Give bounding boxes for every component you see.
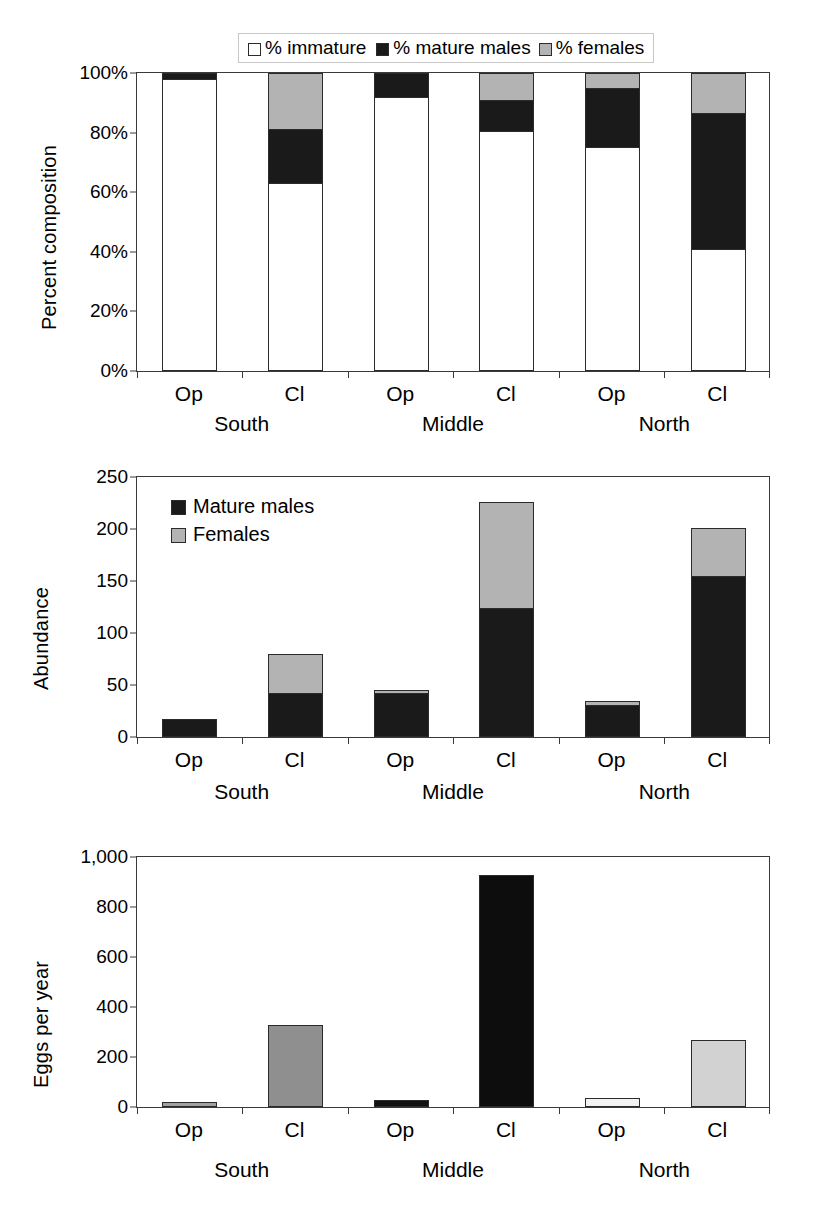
chart-percent-composition: Percent composition % immature % mature … — [0, 0, 814, 440]
bar — [585, 1098, 640, 1108]
bar — [585, 701, 640, 737]
bar-segment-females — [480, 503, 533, 609]
y-axis-label-abundance: Abundance — [30, 587, 53, 690]
plot-area-percent-composition: 100% 80% 60% 40% 20% 0% — [136, 72, 770, 372]
group-label: South — [214, 1158, 269, 1182]
group-label: Middle — [422, 780, 484, 804]
plot-area-abundance: 250 200 150 100 50 0 Mature males Female… — [136, 476, 770, 738]
x-axis-label: Cl — [707, 382, 727, 406]
bar-segment-immature — [163, 80, 216, 370]
bars-abundance — [137, 477, 769, 737]
y-tick: 0 — [117, 726, 137, 748]
bar-segment-immature — [692, 250, 745, 370]
bars-eggs-per-year — [137, 857, 769, 1107]
x-axis-label: Cl — [285, 382, 305, 406]
bar-slot — [268, 857, 323, 1107]
bar-segment-mature-males — [480, 609, 533, 736]
bar-slot — [479, 73, 534, 371]
bar-segment-mature-males — [269, 694, 322, 736]
bar-segment-mature-males — [692, 114, 745, 250]
x-tick-mark — [137, 737, 138, 744]
y-tick: 400 — [96, 996, 137, 1018]
legend-item-females: % females — [539, 37, 645, 59]
y-tick: 800 — [96, 896, 137, 918]
bar-segment-mature-males — [375, 694, 428, 736]
x-tick-mark — [664, 1107, 665, 1114]
y-tick: 60% — [90, 181, 137, 203]
y-tick: 20% — [90, 300, 137, 322]
bar-slot — [374, 857, 429, 1107]
legend-item-mature-males: % mature males — [376, 37, 530, 59]
bar-segment-immature — [586, 148, 639, 370]
bars-percent-composition — [137, 73, 769, 371]
bar — [691, 73, 746, 371]
x-tick-mark — [769, 1107, 770, 1114]
x-tick-mark — [348, 1107, 349, 1114]
x-axis-label: Op — [597, 748, 625, 772]
x-tick-mark — [559, 1107, 560, 1114]
x-axis-label: Cl — [496, 382, 516, 406]
y-tick: 1,000 — [80, 846, 137, 868]
y-tick: 600 — [96, 946, 137, 968]
bar-slot — [268, 73, 323, 371]
bar-segment-females — [269, 74, 322, 130]
x-axis-label: Cl — [707, 748, 727, 772]
x-tick-mark — [769, 371, 770, 378]
bar — [162, 719, 217, 737]
bar-segment-immature — [480, 132, 533, 370]
bar-segment-mature-males — [480, 101, 533, 132]
bar-segment-immature — [269, 184, 322, 370]
x-tick-mark — [664, 737, 665, 744]
bar — [268, 1025, 323, 1108]
legend-label-mature-males: % mature males — [393, 37, 530, 59]
bar-slot — [374, 477, 429, 737]
x-tick-mark — [453, 371, 454, 378]
x-axis-label: Cl — [285, 748, 305, 772]
x-axis-label: Op — [175, 748, 203, 772]
bar-segment-females — [692, 74, 745, 114]
y-axis-label-percent-composition: Percent composition — [38, 145, 61, 330]
y-tick: 0% — [101, 360, 137, 382]
bar-segment-immature — [375, 98, 428, 370]
bar-slot — [691, 477, 746, 737]
group-label: Middle — [422, 1158, 484, 1182]
bar-slot — [691, 73, 746, 371]
bar-slot — [374, 73, 429, 371]
bar-segment-mature-males — [586, 89, 639, 148]
bar — [374, 73, 429, 371]
bar-segment-mature-males — [163, 720, 216, 736]
x-axis-label: Op — [175, 1118, 203, 1142]
y-tick: 100 — [96, 622, 137, 644]
legend-label-immature: % immature — [265, 37, 366, 59]
y-tick: 0 — [117, 1096, 137, 1118]
white-square-icon — [248, 43, 261, 56]
x-axis-label: Op — [597, 1118, 625, 1142]
bar-segment-mature-males — [269, 130, 322, 183]
x-tick-mark — [769, 737, 770, 744]
bar-segment-females — [692, 529, 745, 577]
y-tick: 100% — [79, 62, 137, 84]
x-axis-label: Op — [597, 382, 625, 406]
bar-slot — [585, 73, 640, 371]
bar — [162, 73, 217, 371]
bar-segment-mature-males — [692, 577, 745, 736]
group-label: North — [639, 780, 690, 804]
bar — [268, 654, 323, 737]
bar-slot — [268, 477, 323, 737]
bar — [691, 528, 746, 737]
bar — [268, 73, 323, 371]
x-tick-mark — [242, 1107, 243, 1114]
x-tick-mark — [137, 1107, 138, 1114]
bar-slot — [162, 73, 217, 371]
x-tick-mark — [664, 371, 665, 378]
x-axis-label: Op — [386, 1118, 414, 1142]
bar-slot — [162, 477, 217, 737]
x-tick-mark — [559, 737, 560, 744]
x-tick-mark — [137, 371, 138, 378]
bar-slot — [585, 857, 640, 1107]
bar — [479, 875, 534, 1108]
x-tick-mark — [559, 371, 560, 378]
bar — [585, 73, 640, 371]
y-axis-label-eggs-per-year: Eggs per year — [30, 961, 53, 1088]
chart-abundance: Abundance 250 200 150 100 50 0 Mature ma… — [0, 440, 814, 840]
